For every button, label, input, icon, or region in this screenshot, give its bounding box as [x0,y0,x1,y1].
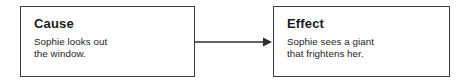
arrow-right-icon [193,32,273,52]
cause-body-line-2: the window. [34,48,186,60]
cause-body-text: Sophie looks out the window. [34,36,186,60]
cause-effect-diagram: Cause Sophie looks out the window. Effec… [0,0,472,84]
cause-box[interactable]: Cause Sophie looks out the window. [20,6,195,77]
effect-box[interactable]: Effect Sophie sees a giant that frighten… [273,6,450,77]
effect-body-line-1: Sophie sees a giant [287,36,441,48]
effect-heading: Effect [287,16,441,32]
cause-body-line-1: Sophie looks out [34,36,186,48]
cause-box-content: Cause Sophie looks out the window. [34,16,186,60]
effect-body-line-2: that frightens her. [287,48,441,60]
connector-arrowhead [263,37,272,46]
cause-heading: Cause [34,16,186,32]
effect-box-content: Effect Sophie sees a giant that frighten… [287,16,441,60]
effect-body-text: Sophie sees a giant that frightens her. [287,36,441,60]
